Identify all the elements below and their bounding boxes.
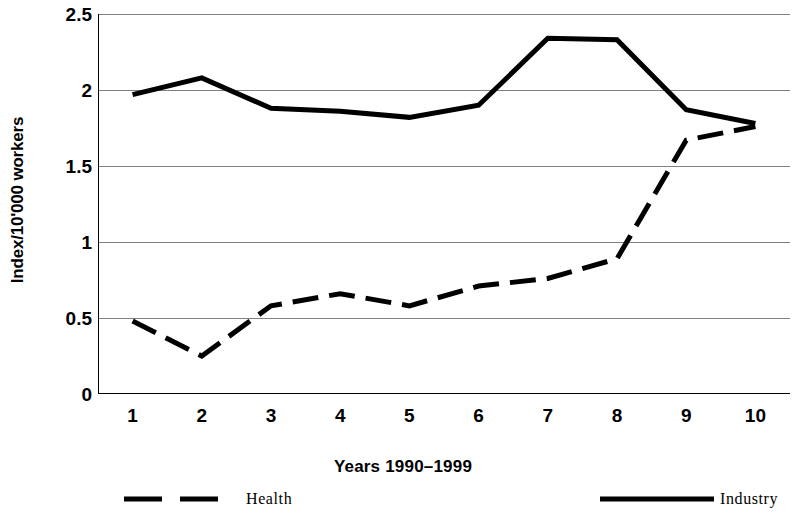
x-tick-label: 2 [172,406,232,425]
line-chart-figure: Index/10'000 workers 00.511.522.5 123456… [0,0,806,517]
plot-area [98,14,790,394]
series-line-health [133,126,756,356]
y-tick-label: 1 [36,233,92,252]
y-axis-title-text: Index/10'000 workers [8,117,28,283]
legend-entry-health: Health [122,487,292,511]
legend-swatch-dashed-line [122,487,242,511]
series-line-industry [133,38,756,123]
chart-legend: Health Industry [0,487,806,517]
y-axis-title: Index/10'000 workers [0,0,36,400]
y-tick-label: 0.5 [36,309,92,328]
x-tick-label: 1 [103,406,163,425]
x-axis-tick-labels: 12345678910 [98,406,790,436]
y-tick-label: 2 [36,81,92,100]
x-tick-label: 3 [241,406,301,425]
y-tick-label: 1.5 [36,157,92,176]
y-tick-label: 2.5 [36,5,92,24]
y-axis-tick-labels: 00.511.522.5 [32,0,92,400]
x-tick-label: 10 [725,406,785,425]
x-tick-label: 6 [449,406,509,425]
x-tick-label: 9 [656,406,716,425]
x-tick-label: 8 [587,406,647,425]
x-tick-label: 7 [518,406,578,425]
x-tick-label: 5 [379,406,439,425]
x-tick-label: 4 [310,406,370,425]
legend-swatch-solid-line [598,487,716,511]
y-tick-label: 0 [36,385,92,404]
legend-label-health: Health [242,490,292,508]
legend-label-industry: Industry [716,490,778,508]
x-axis-title: Years 1990–1999 [0,457,806,477]
plot-svg [98,14,790,394]
legend-entry-industry: Industry [598,487,778,511]
